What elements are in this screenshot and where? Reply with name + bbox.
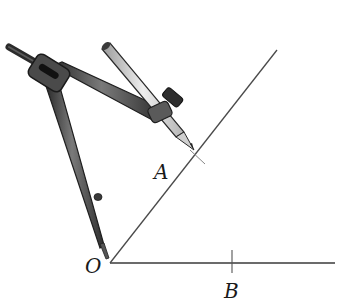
label-point-A: A xyxy=(154,162,168,182)
compass-icon xyxy=(9,40,194,259)
label-point-B: B xyxy=(224,281,239,301)
label-point-O: O xyxy=(85,256,101,276)
compass-construction-figure xyxy=(0,0,337,307)
